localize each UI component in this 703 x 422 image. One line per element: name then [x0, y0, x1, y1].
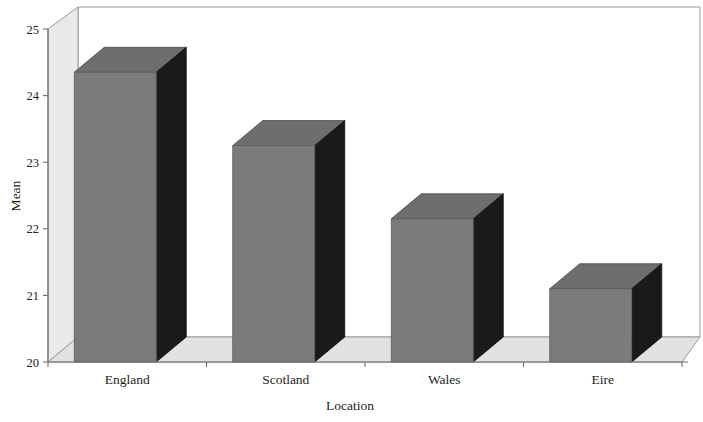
- bar-chart: 252423222120 EnglandScotlandWalesEire Lo…: [0, 0, 703, 422]
- y-tick-label: 25: [27, 23, 40, 37]
- bar-england: [74, 47, 186, 362]
- y-tick-label: 24: [27, 89, 40, 103]
- x-category-label-england: England: [105, 372, 150, 387]
- bar-side-face: [473, 194, 503, 362]
- chart-canvas: 252423222120 EnglandScotlandWalesEire Lo…: [0, 0, 703, 422]
- y-axis-title: Mean: [8, 180, 23, 211]
- y-tick-label: 22: [27, 222, 40, 236]
- bar-eire: [550, 264, 662, 362]
- bar-front-face: [550, 289, 632, 362]
- bar-front-face: [74, 72, 156, 362]
- y-tick-label: 23: [27, 156, 40, 170]
- bar-front-face: [233, 146, 315, 362]
- bar-scotland: [233, 121, 345, 362]
- x-axis-title: Location: [326, 398, 374, 413]
- bar-wales: [391, 194, 503, 362]
- x-category-label-wales: Wales: [428, 372, 461, 387]
- y-tick-label: 20: [27, 356, 40, 370]
- y-tick-label: 21: [27, 289, 40, 303]
- bar-side-face: [315, 121, 345, 362]
- plot-left-wall: [48, 7, 78, 362]
- bar-side-face: [156, 47, 186, 362]
- x-category-label-eire: Eire: [592, 372, 615, 387]
- x-category-label-scotland: Scotland: [262, 372, 309, 387]
- bar-front-face: [391, 219, 473, 362]
